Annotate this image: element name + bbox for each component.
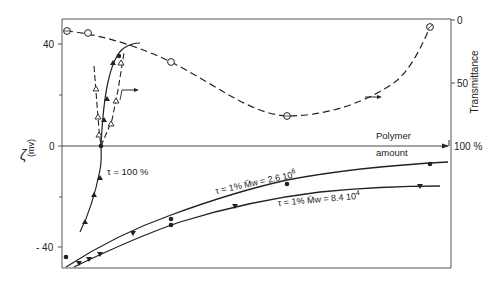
zeta-unit: (mv) <box>26 139 36 157</box>
x-axis-title-line2: amount <box>376 147 408 158</box>
right-axis-title: Transmittance <box>469 50 480 113</box>
annotation-tau-100: τ = 100 % <box>107 166 149 177</box>
y-tick-minus-40: - 40 <box>36 242 54 253</box>
x-axis-title-line1: Polymer <box>376 130 411 141</box>
series-zeta-tau-100 <box>80 43 140 232</box>
right-tick-50: 50 <box>457 78 469 89</box>
right-axis-ticks <box>451 20 455 83</box>
left-axis-ticks <box>58 44 62 247</box>
y-tick-0: 0 <box>49 141 55 152</box>
series-transmittance <box>64 24 434 120</box>
annotation-mw-8-4e4-exp: 4 <box>355 189 360 196</box>
annotation-mw-2-6e6-text: τ = 1% M̄w = 2.6 10 <box>214 170 293 196</box>
annotation-mw-2-6e6: τ = 1% M̄w = 2.6 106 <box>214 167 297 196</box>
right-tick-0: 0 <box>457 15 463 26</box>
right-tick-100: 100 % <box>454 141 482 152</box>
series-zeta-tau-100-dashed <box>93 53 139 146</box>
y-tick-40: 40 <box>43 39 55 50</box>
annotation-mw-8-4e4-text: τ = 1% M̄w = 8.4 10 <box>277 191 356 208</box>
annotation-mw-2-6e6-exp: 6 <box>291 167 296 175</box>
y-axis-title: ζ (mv) <box>20 139 36 163</box>
series-mw-8-4e4 <box>74 184 440 267</box>
zeta-transmittance-chart: 40 0 - 40 ζ (mv) 0 50 100 % Transmittanc… <box>0 0 495 284</box>
